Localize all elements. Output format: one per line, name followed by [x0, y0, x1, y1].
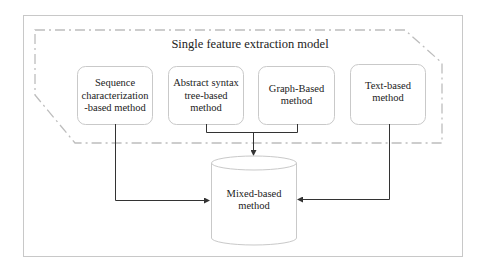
label-line: tree-based — [173, 90, 239, 103]
label-line: Text-based — [365, 80, 411, 93]
label-line: method — [269, 95, 324, 108]
label-text: Text-based method — [350, 63, 426, 121]
label-ast: Abstract syntax tree-based method — [168, 67, 244, 125]
label-line: Sequence — [81, 77, 148, 90]
label-line: Abstract syntax — [173, 77, 239, 90]
group-title: Single feature extraction model — [100, 37, 400, 52]
label-sequence: Sequence characterization -based method — [77, 67, 153, 125]
label-line: characterization — [81, 90, 148, 103]
label-line: Mixed-based — [227, 188, 282, 201]
label-line: method — [227, 200, 282, 213]
label-mixed: Mixed-based method — [211, 183, 297, 217]
label-line: -based method — [81, 102, 148, 115]
label-line: method — [365, 92, 411, 105]
connector-ast-graph — [207, 124, 298, 133]
arrow-sequence-to-mixed — [116, 124, 210, 201]
label-line: method — [173, 102, 239, 115]
arrow-text-to-mixed — [298, 124, 390, 200]
label-line: Graph-Based — [269, 83, 324, 96]
label-graph: Graph-Based method — [258, 66, 335, 124]
